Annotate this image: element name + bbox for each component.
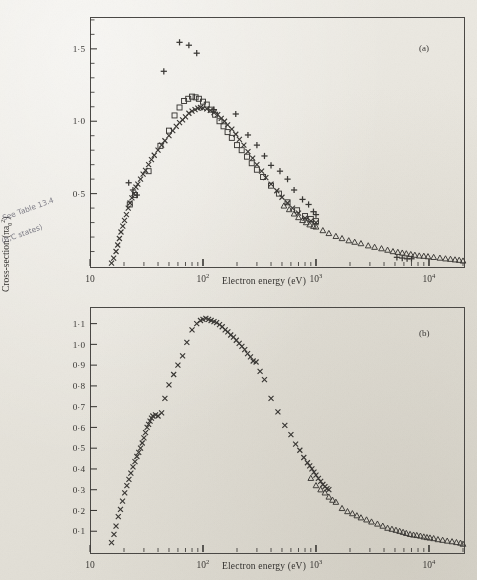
svg-text:10: 10 <box>85 560 95 570</box>
panel-b-frame <box>90 307 465 554</box>
svg-text:0·4: 0·4 <box>73 464 86 474</box>
svg-text:1·5: 1·5 <box>73 44 86 54</box>
y-axis-unit-sub-b: 0 <box>7 223 13 226</box>
panel-a-frame <box>90 17 465 268</box>
svg-text:103: 103 <box>310 558 324 570</box>
panel-a-tag: (a) <box>419 43 429 53</box>
svg-text:0·8: 0·8 <box>73 381 86 391</box>
svg-text:104: 104 <box>423 272 437 284</box>
svg-text:104: 104 <box>423 558 437 570</box>
panel-a-x-axis-label: Electron energy (eV) <box>222 276 306 286</box>
svg-text:1·0: 1·0 <box>73 116 86 126</box>
svg-text:0·7: 0·7 <box>73 402 86 412</box>
panel-b: (b) Cross-section (πa02) Electron energy… <box>0 292 477 580</box>
svg-text:102: 102 <box>197 558 210 570</box>
panel-a: (a) Cross-section (πa02) Electron energy… <box>0 0 477 292</box>
svg-text:1·0: 1·0 <box>73 340 86 350</box>
svg-text:0·2: 0·2 <box>73 506 86 516</box>
panel-b-y-axis-label: Cross-section (πa02) <box>0 0 13 292</box>
svg-text:0·3: 0·3 <box>73 485 86 495</box>
panel-b-x-axis-label: Electron energy (eV) <box>222 561 306 571</box>
svg-text:0·5: 0·5 <box>73 189 86 199</box>
svg-text:102: 102 <box>197 272 210 284</box>
svg-text:0·5: 0·5 <box>73 443 86 453</box>
svg-text:1·1: 1·1 <box>73 319 86 329</box>
panel-b-tag: (b) <box>419 328 430 338</box>
svg-text:0·9: 0·9 <box>73 360 86 370</box>
svg-text:10: 10 <box>85 274 95 284</box>
svg-text:0·6: 0·6 <box>73 423 86 433</box>
svg-text:103: 103 <box>310 272 324 284</box>
svg-text:0·1: 0·1 <box>73 526 86 536</box>
